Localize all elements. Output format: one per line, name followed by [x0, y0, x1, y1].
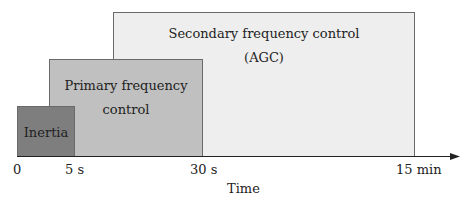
tick-0: 0 [13, 162, 21, 177]
tick-15min: 15 min [396, 162, 442, 177]
tick-5s: 5 s [65, 162, 84, 177]
tick-30s: 30 s [190, 162, 217, 177]
axis-arrow-icon [450, 153, 460, 160]
axis-label: Time [227, 181, 260, 196]
